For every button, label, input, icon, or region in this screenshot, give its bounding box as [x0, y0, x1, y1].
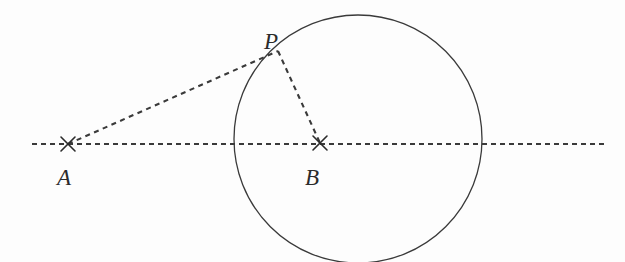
point-label-a: A — [57, 166, 71, 189]
point-label-p: P — [264, 30, 278, 53]
point-label-b: B — [305, 166, 319, 189]
geometry-figure: A B P — [0, 0, 625, 262]
figure-background — [0, 0, 625, 262]
geometry-canvas — [0, 0, 625, 262]
